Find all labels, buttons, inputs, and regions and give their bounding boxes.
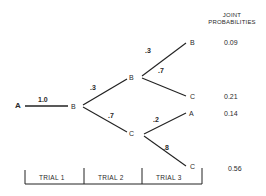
joint-prob-bc: 0.21: [224, 93, 238, 100]
node-level2-c: C: [129, 130, 134, 137]
node-trial1-b: B: [71, 103, 76, 110]
node-level2-b: B: [129, 74, 134, 81]
edge-b-b: [83, 79, 127, 105]
prob-root-edge: 1.0: [38, 96, 48, 103]
header-line2: PROBABILITIES: [205, 19, 259, 25]
node-level3-c2: C: [190, 163, 195, 170]
joint-prob-ca: 0.14: [224, 110, 238, 117]
node-level3-c1: C: [190, 93, 195, 100]
joint-prob-bb: 0.09: [224, 39, 238, 46]
prob-bb-b: .3: [145, 47, 151, 54]
node-level3-a: A: [189, 110, 194, 117]
header-line1: JOINT: [205, 12, 259, 18]
node-level3-b: B: [190, 39, 195, 46]
trial-label-3: TRIAL 3: [156, 175, 182, 182]
trial-label-2: TRIAL 2: [98, 175, 124, 182]
prob-bb-c: .7: [158, 67, 164, 74]
prob-b-c: .7: [108, 112, 114, 119]
trial-label-1: TRIAL 1: [39, 175, 65, 182]
prob-cc-c: .8: [163, 144, 169, 151]
edge-cc-c: [144, 136, 186, 166]
prob-cc-a: .2: [153, 116, 159, 123]
edge-bb-c: [142, 78, 186, 96]
joint-probabilities-header: JOINT PROBABILITIES: [205, 12, 259, 25]
prob-b-b: .3: [90, 84, 96, 91]
node-root-a: A: [15, 102, 21, 110]
edge-b-c: [83, 107, 127, 132]
joint-prob-cc: 0.56: [228, 165, 242, 172]
edge-cc-a: [144, 113, 186, 134]
